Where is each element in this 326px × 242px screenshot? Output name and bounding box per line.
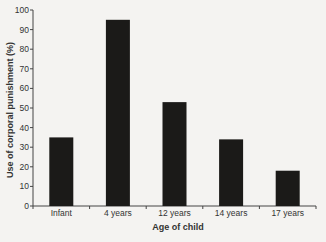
- bar: [49, 137, 73, 206]
- x-tick-label: 14 years: [215, 208, 248, 218]
- y-tick-label: 20: [20, 162, 30, 172]
- bar: [106, 20, 130, 206]
- bar: [276, 171, 300, 206]
- x-axis-label: Age of child: [0, 222, 326, 232]
- x-tick-label: 4 years: [104, 208, 132, 218]
- y-tick-label: 70: [20, 64, 30, 74]
- bar: [163, 102, 187, 206]
- y-tick-label: 30: [20, 142, 30, 152]
- y-tick-label: 40: [20, 123, 30, 133]
- x-axis: Infant4 years12 years14 years17 years: [33, 206, 316, 218]
- y-tick-label: 80: [20, 44, 30, 54]
- y-tick-label: 60: [20, 83, 30, 93]
- bar-chart: 0102030405060708090100 Infant4 years12 y…: [0, 0, 326, 242]
- y-axis: 0102030405060708090100: [15, 5, 33, 211]
- x-tick-label: 17 years: [271, 208, 304, 218]
- x-tick-label: 12 years: [158, 208, 191, 218]
- y-tick-label: 0: [24, 201, 29, 211]
- y-tick-label: 100: [15, 5, 29, 15]
- y-tick-label: 90: [20, 25, 30, 35]
- y-tick-label: 10: [20, 181, 30, 191]
- bars: [49, 20, 299, 206]
- bar: [219, 139, 243, 206]
- y-tick-label: 50: [20, 103, 30, 113]
- x-tick-label: Infant: [51, 208, 73, 218]
